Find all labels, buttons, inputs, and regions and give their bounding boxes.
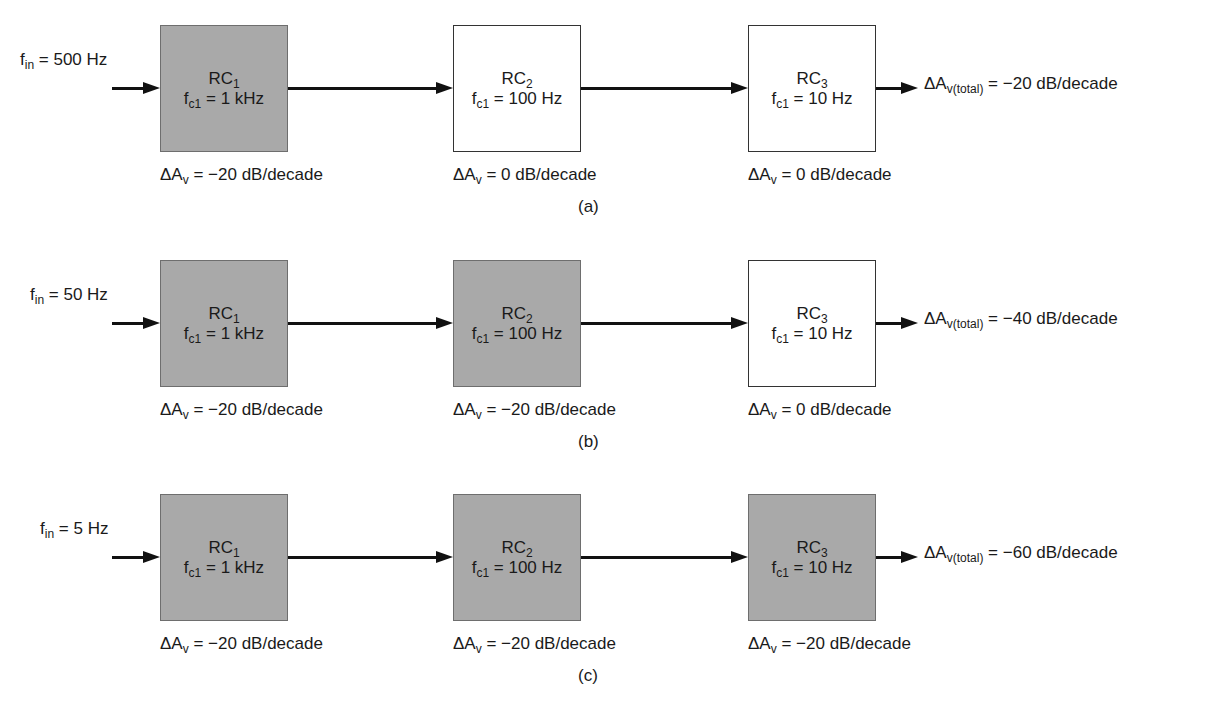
input-frequency-label: fin = 5 Hz <box>40 519 108 539</box>
stage-cutoff-frequency: fc1 = 100 Hz <box>472 558 563 578</box>
rc-stage-3-block: RC3fc1 = 10 Hz <box>748 25 876 152</box>
arrowhead-icon <box>436 82 453 94</box>
arrowhead-icon <box>436 317 453 329</box>
arrowhead-icon <box>143 551 160 563</box>
arrowhead-icon <box>731 82 748 94</box>
total-rolloff-label: ΔAv(total) = −60 dB/decade <box>924 543 1118 563</box>
input-frequency-label: fin = 50 Hz <box>30 285 108 305</box>
rc-stage-2-block: RC2fc1 = 100 Hz <box>453 260 581 387</box>
rc-stage-3-block: RC3fc1 = 10 Hz <box>748 494 876 621</box>
stage-cutoff-frequency: fc1 = 1 kHz <box>184 558 264 578</box>
rc-stage-1-block: RC1fc1 = 1 kHz <box>160 260 288 387</box>
stage-cutoff-frequency: fc1 = 10 Hz <box>771 324 852 344</box>
arrowhead-icon <box>901 551 918 563</box>
stage-name: RC3 <box>796 304 827 324</box>
stage-gain-rolloff-label: ΔAv = −20 dB/decade <box>748 634 911 654</box>
arrowhead-icon <box>901 82 918 94</box>
stage-gain-rolloff-label: ΔAv = 0 dB/decade <box>453 165 597 185</box>
stage-gain-rolloff-label: ΔAv = −20 dB/decade <box>453 634 616 654</box>
stage-name: RC3 <box>796 538 827 558</box>
total-rolloff-label: ΔAv(total) = −20 dB/decade <box>924 74 1118 94</box>
arrowhead-icon <box>143 317 160 329</box>
input-subscript: in <box>35 293 44 307</box>
arrowhead-icon <box>901 317 918 329</box>
rc-stage-1-block: RC1fc1 = 1 kHz <box>160 494 288 621</box>
stage-gain-rolloff-label: ΔAv = −20 dB/decade <box>160 400 323 420</box>
stage-name: RC2 <box>501 304 532 324</box>
arrowhead-icon <box>436 551 453 563</box>
stage-gain-rolloff-label: ΔAv = −20 dB/decade <box>160 165 323 185</box>
input-value: = 500 Hz <box>34 50 107 69</box>
rc-stage-3-block: RC3fc1 = 10 Hz <box>748 260 876 387</box>
stage-cutoff-frequency: fc1 = 1 kHz <box>184 89 264 109</box>
subfigure-caption: (b) <box>578 432 599 452</box>
stage-name: RC3 <box>796 69 827 89</box>
stage-cutoff-frequency: fc1 = 10 Hz <box>771 558 852 578</box>
input-value: = 50 Hz <box>44 285 108 304</box>
input-subscript: in <box>45 527 54 541</box>
stage-name: RC1 <box>208 304 239 324</box>
stage-name: RC2 <box>501 69 532 89</box>
arrowhead-icon <box>731 317 748 329</box>
subfigure-caption: (c) <box>578 666 598 686</box>
stage-gain-rolloff-label: ΔAv = 0 dB/decade <box>748 165 892 185</box>
total-rolloff-label: ΔAv(total) = −40 dB/decade <box>924 309 1118 329</box>
arrowhead-icon <box>143 82 160 94</box>
rc-stage-1-block: RC1fc1 = 1 kHz <box>160 25 288 152</box>
arrowhead-icon <box>731 551 748 563</box>
stage-gain-rolloff-label: ΔAv = 0 dB/decade <box>748 400 892 420</box>
stage-name: RC1 <box>208 69 239 89</box>
stage-name: RC2 <box>501 538 532 558</box>
subfigure-caption: (a) <box>578 197 599 217</box>
input-value: = 5 Hz <box>54 519 108 538</box>
rc-stage-2-block: RC2fc1 = 100 Hz <box>453 25 581 152</box>
stage-cutoff-frequency: fc1 = 10 Hz <box>771 89 852 109</box>
stage-cutoff-frequency: fc1 = 100 Hz <box>472 324 563 344</box>
input-frequency-label: fin = 500 Hz <box>20 50 107 70</box>
stage-cutoff-frequency: fc1 = 1 kHz <box>184 324 264 344</box>
stage-name: RC1 <box>208 538 239 558</box>
stage-gain-rolloff-label: ΔAv = −20 dB/decade <box>160 634 323 654</box>
stage-gain-rolloff-label: ΔAv = −20 dB/decade <box>453 400 616 420</box>
input-subscript: in <box>25 58 34 72</box>
rc-stage-2-block: RC2fc1 = 100 Hz <box>453 494 581 621</box>
stage-cutoff-frequency: fc1 = 100 Hz <box>472 89 563 109</box>
